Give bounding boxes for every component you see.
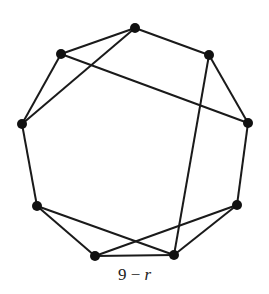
node-left — [17, 119, 27, 129]
node-bottom-right — [169, 250, 179, 260]
edge-lower-left-bottom-right — [37, 206, 174, 255]
edge-bottom-left-lower-left — [37, 206, 95, 256]
edge-top-upper-right — [135, 28, 209, 55]
edge-upper-right-right — [209, 55, 248, 123]
figure-caption: 9 − r — [0, 265, 269, 285]
edge-bottom-left-lower-right — [95, 205, 237, 256]
node-bottom-left — [90, 251, 100, 261]
caption-variable: r — [144, 265, 151, 284]
node-upper-left — [56, 49, 66, 59]
node-upper-right — [204, 50, 214, 60]
nodes — [17, 23, 253, 261]
edge-upper-left-right — [61, 54, 248, 123]
edge-lower-right-bottom-right — [174, 205, 237, 255]
node-top — [130, 23, 140, 33]
edge-upper-left-top — [61, 28, 135, 54]
edge-right-lower-right — [237, 123, 248, 205]
edge-left-upper-left — [22, 54, 61, 124]
node-right — [243, 118, 253, 128]
edges — [22, 28, 248, 256]
node-lower-right — [232, 200, 242, 210]
edge-bottom-right-bottom-left — [95, 255, 174, 256]
graph-diagram — [0, 0, 269, 294]
node-lower-left — [32, 201, 42, 211]
edge-lower-left-left — [22, 124, 37, 206]
caption-number: 9 — [118, 265, 127, 284]
caption-minus: − — [131, 265, 141, 284]
